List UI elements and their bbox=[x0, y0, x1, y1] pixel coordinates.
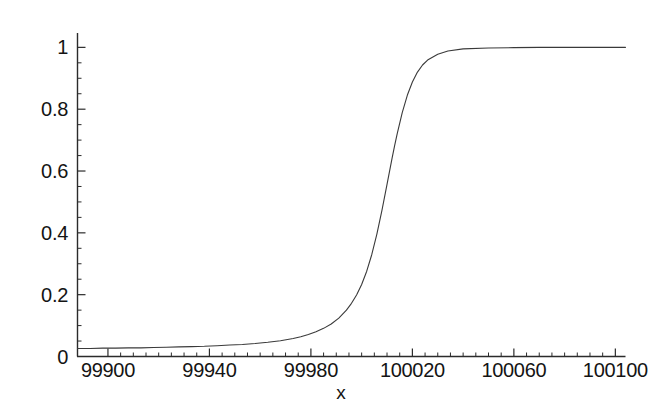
x-axis-tick-label: 100020 bbox=[380, 359, 445, 382]
data-series-group bbox=[78, 47, 626, 348]
x-axis-tick-label: 100060 bbox=[481, 359, 546, 382]
x-axis-title: x bbox=[336, 382, 346, 404]
x-axis-ticks bbox=[108, 349, 615, 357]
plot-canvas bbox=[0, 0, 662, 418]
x-axis-tick-label: 99900 bbox=[81, 359, 135, 382]
y-axis-tick-label: 0 bbox=[8, 345, 68, 368]
y-axis-ticks bbox=[78, 47, 86, 341]
x-axis-tick-label: 100100 bbox=[583, 359, 648, 382]
chart-figure: 00.20.40.60.81 9990099940999801000201000… bbox=[0, 0, 662, 418]
y-axis-tick-label: 0.8 bbox=[8, 98, 68, 121]
x-axis-tick-label: 99980 bbox=[284, 359, 338, 382]
x-axis-tick-label: 99940 bbox=[182, 359, 236, 382]
y-axis-tick-label: 0.2 bbox=[8, 283, 68, 306]
y-axis-tick-label: 0.4 bbox=[8, 221, 68, 244]
y-axis-tick-label: 0.6 bbox=[8, 160, 68, 183]
y-axis-tick-label: 1 bbox=[8, 36, 68, 59]
axis-lines bbox=[77, 33, 626, 357]
data-series-line bbox=[78, 47, 626, 348]
